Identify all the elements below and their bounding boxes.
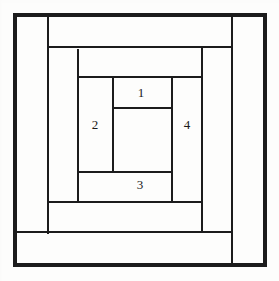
nested-rectangles-diagram: 1 2 3 4 <box>0 0 279 281</box>
diagram-canvas <box>0 0 279 281</box>
outer-frame <box>15 15 265 265</box>
region-label-2: 2 <box>92 118 99 131</box>
region-label-3: 3 <box>137 178 144 191</box>
region-label-4: 4 <box>184 118 191 131</box>
region-label-1: 1 <box>138 86 145 99</box>
